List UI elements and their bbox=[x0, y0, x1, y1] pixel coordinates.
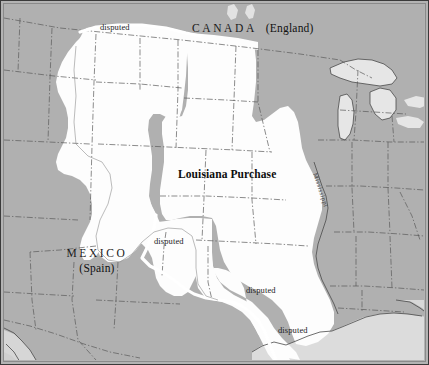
louisiana-purchase-map: CANADA (England) MEXICO (Spain) Louisian… bbox=[0, 0, 429, 365]
map-graphic bbox=[0, 0, 429, 365]
